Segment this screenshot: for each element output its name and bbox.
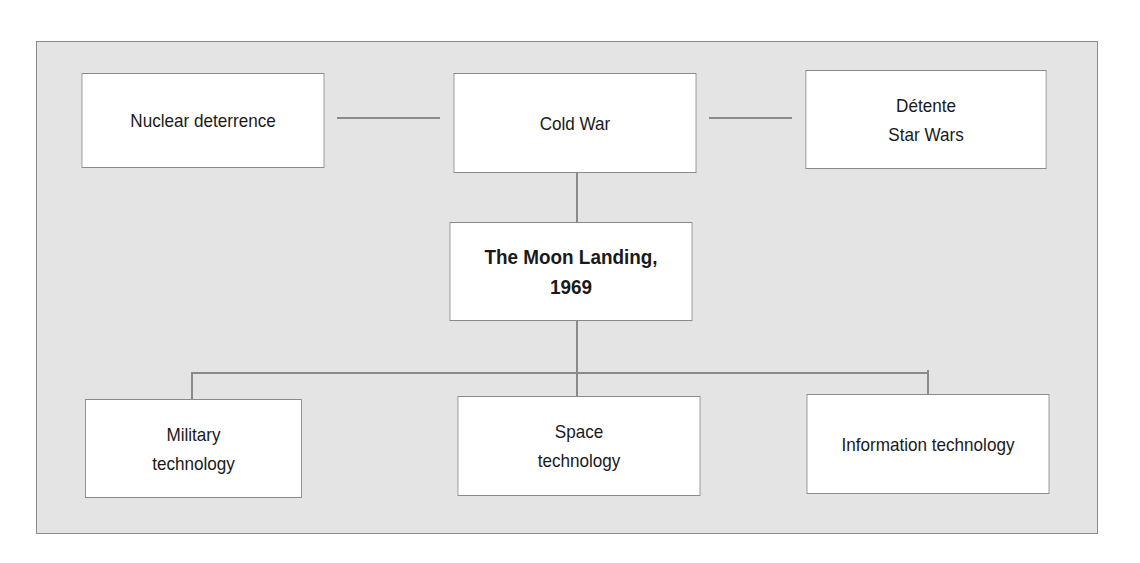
node-space-technology: Space technology: [458, 396, 701, 496]
connector-branch-horizontal: [191, 372, 928, 374]
node-cold-war: Cold War: [454, 73, 697, 173]
node-label: Space technology: [538, 417, 621, 475]
node-label: The Moon Landing, 1969: [484, 242, 657, 302]
node-label: Détente Star Wars: [888, 91, 963, 149]
connector-moon-branch: [576, 320, 578, 396]
connector-nuclear-coldwar: [337, 117, 440, 119]
node-nuclear-deterrence: Nuclear deterrence: [82, 73, 325, 168]
connector-branch-military: [191, 372, 193, 399]
node-label: Nuclear deterrence: [130, 106, 275, 135]
node-label: Cold War: [540, 109, 611, 138]
node-label: Information technology: [841, 430, 1014, 459]
node-detente-star-wars: Détente Star Wars: [805, 70, 1046, 169]
connector-coldwar-moon: [576, 172, 578, 222]
connector-coldwar-detente: [709, 117, 792, 119]
connector-branch-info: [927, 370, 929, 394]
node-moon-landing: The Moon Landing, 1969: [450, 222, 693, 321]
node-military-technology: Military technology: [85, 399, 302, 498]
node-information-technology: Information technology: [807, 394, 1050, 494]
node-label: Military technology: [152, 420, 235, 478]
